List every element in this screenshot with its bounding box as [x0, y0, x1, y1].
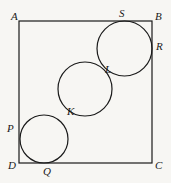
square-abcd [19, 21, 152, 163]
circle-bottom-left [20, 115, 68, 163]
tangent-point-label-p: P [7, 123, 14, 134]
tangent-point-label-k: K [67, 106, 74, 117]
tangent-point-label-q: Q [43, 166, 51, 177]
tangent-point-label-l: L [105, 64, 111, 75]
tangent-point-label-r: R [156, 41, 163, 52]
geometry-figure: A B S R L K P D Q C [0, 0, 171, 183]
figure-canvas [0, 0, 171, 183]
square-outline [19, 21, 152, 163]
vertex-label-d: D [8, 160, 16, 171]
vertex-label-b: B [155, 11, 162, 22]
vertex-label-a: A [11, 11, 18, 22]
tangent-point-label-s: S [119, 8, 125, 19]
tangent-circle-chain [20, 21, 152, 163]
vertex-label-c: C [155, 160, 162, 171]
